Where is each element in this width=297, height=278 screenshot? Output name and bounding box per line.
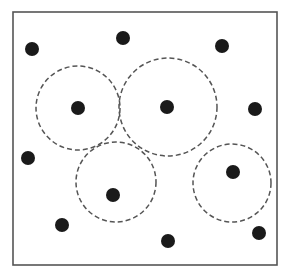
point-dot-10 — [55, 218, 69, 232]
point-dot-4 — [71, 101, 85, 115]
dashed-circle-circle-4 — [193, 144, 271, 222]
dashed-circle-circle-3 — [76, 142, 156, 222]
dashed-circles-layer — [36, 58, 271, 222]
point-dot-2 — [116, 31, 130, 45]
point-dot-3 — [215, 39, 229, 53]
point-distribution-diagram — [0, 0, 297, 278]
point-dot-12 — [252, 226, 266, 240]
point-dot-1 — [25, 42, 39, 56]
diagram-canvas — [0, 0, 297, 278]
point-dot-6 — [248, 102, 262, 116]
dots-layer — [21, 31, 266, 248]
point-dot-5 — [160, 100, 174, 114]
point-dot-7 — [21, 151, 35, 165]
bounding-frame — [13, 12, 277, 265]
point-dot-8 — [106, 188, 120, 202]
point-dot-9 — [226, 165, 240, 179]
point-dot-11 — [161, 234, 175, 248]
